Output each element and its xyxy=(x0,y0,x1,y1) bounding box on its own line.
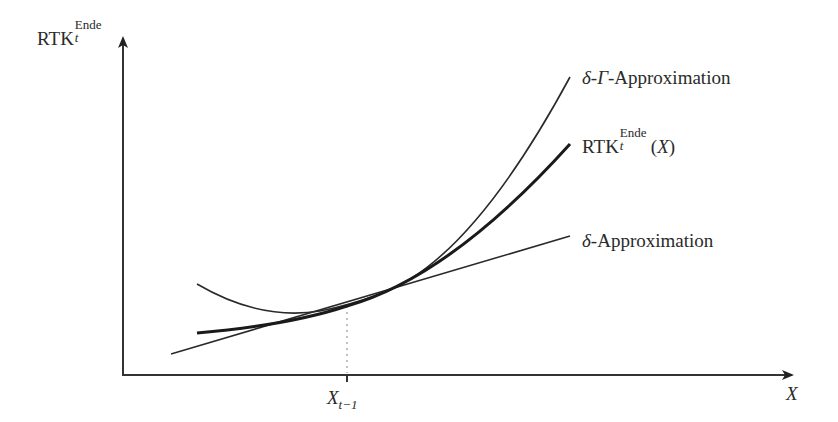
x-axis-label: X xyxy=(786,384,798,403)
delta-gamma-label-suffix: -Approximation xyxy=(608,67,730,88)
y-axis-label-sup: Ende xyxy=(75,18,102,31)
x-tick-label: Xt−1 xyxy=(327,388,358,407)
rtk-label-sup: Ende xyxy=(620,126,647,139)
x-tick-label-sub: t−1 xyxy=(339,397,358,412)
rtk-label-sub: t xyxy=(620,139,624,152)
y-axis-label-base: RTK xyxy=(37,28,74,49)
delta-gamma-label-prefix: δ- xyxy=(582,67,597,88)
diagram-canvas xyxy=(0,0,838,422)
x-axis-label-text: X xyxy=(786,383,798,404)
rtk-label-var: X xyxy=(657,136,669,157)
delta-label-suffix: -Approximation xyxy=(591,230,713,251)
delta-gamma-label-greek: Γ xyxy=(597,67,608,88)
y-axis-label-sub: t xyxy=(75,31,79,44)
delta-gamma-approximation-curve xyxy=(197,77,570,313)
rtk-label-base: RTK xyxy=(582,136,619,157)
delta-label: δ-Approximation xyxy=(582,231,713,250)
delta-approximation-line xyxy=(171,236,570,354)
rtk-label-paren-close: ) xyxy=(669,136,675,157)
y-axis-label: RTKEndet xyxy=(37,26,106,48)
delta-label-prefix: δ xyxy=(582,230,591,251)
rtk-function-curve xyxy=(197,144,570,333)
delta-gamma-label: δ-Γ-Approximation xyxy=(582,68,730,87)
x-tick-label-base: X xyxy=(327,387,339,408)
rtk-curve-label: RTKEndet(X) xyxy=(582,134,675,156)
